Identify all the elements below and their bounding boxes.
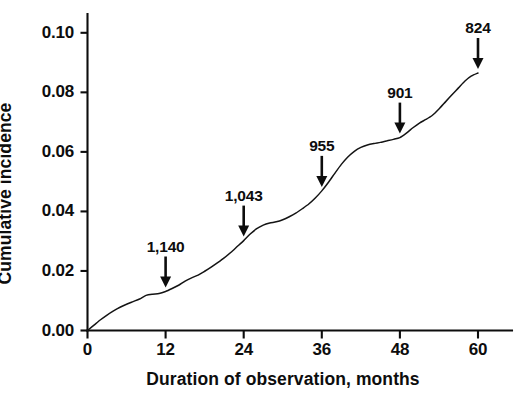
chart-figure: 0.000.020.040.060.080.10 01224364860 1,1…: [0, 0, 520, 399]
x-tick-label: 36: [313, 340, 332, 360]
annotation-label: 1,043: [225, 187, 263, 205]
annotation-label: 955: [309, 137, 334, 155]
x-tick-label: 48: [391, 340, 410, 360]
x-axis-title: Duration of observation, months: [146, 369, 419, 390]
x-tick-label: 0: [83, 340, 92, 360]
y-tick-label: 0.00: [0, 321, 74, 341]
annotation-label: 901: [387, 84, 412, 102]
annotation-arrow-head: [238, 226, 249, 237]
annotation-arrows: [160, 38, 483, 288]
annotation-arrow-head: [160, 277, 171, 288]
annotation-label: 824: [465, 19, 490, 37]
y-tick-label: 0.10: [0, 23, 74, 43]
cumulative-incidence-curve: [88, 73, 479, 331]
annotation-arrow-head: [394, 123, 405, 134]
x-tick-marks: [88, 331, 479, 339]
annotation-arrow-head: [473, 58, 484, 69]
x-tick-label: 24: [234, 340, 253, 360]
y-axis-title: Cumulative incidence: [0, 103, 16, 285]
x-tick-label: 60: [469, 340, 488, 360]
annotation-label: 1,140: [147, 238, 185, 256]
curve-path: [88, 73, 479, 331]
y-tick-label: 0.08: [0, 82, 74, 102]
x-tick-label: 12: [156, 340, 175, 360]
axes: [88, 14, 513, 331]
